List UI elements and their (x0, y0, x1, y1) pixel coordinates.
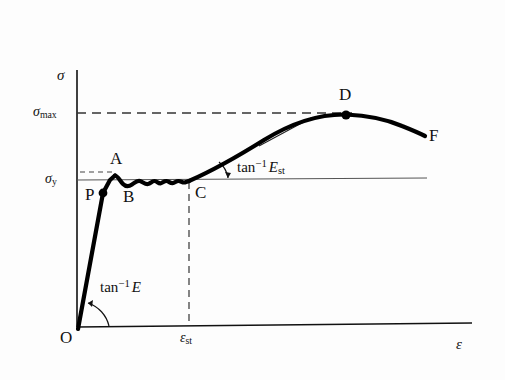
plot-canvas (0, 0, 505, 380)
y-tick-sigma-max: σmax (33, 105, 57, 120)
y-axis-label: σ (57, 68, 64, 83)
point-label-B: B (123, 188, 134, 205)
point-label-D: D (339, 86, 351, 103)
elastic-angle-arrowhead (88, 300, 93, 307)
hardening-angle-annotation: tan−1Est (237, 158, 285, 176)
elastic-angle-prefix: tan (100, 279, 118, 295)
hardening-angle-symbol: E (269, 159, 278, 175)
elastic-angle-annotation: tan−1E (100, 278, 141, 295)
y-tick-sigma-max-subscript: max (40, 109, 57, 120)
y-tick-sigma-y-subscript: y (52, 176, 57, 187)
hardening-angle-subscript: st (278, 165, 285, 176)
curve-yield-plateau (115, 176, 189, 187)
stress-strain-figure: σ ε O σmax σy εst P A B C D F tan−1E tan… (0, 0, 505, 380)
x-axis-label: ε (456, 337, 462, 352)
elastic-angle-arc (88, 303, 109, 326)
sigma-y-reference-line (77, 178, 427, 180)
x-tick-epsilon-st-subscript: st (186, 335, 193, 346)
y-tick-sigma-y: σy (45, 172, 57, 187)
elastic-angle-exponent: −1 (118, 277, 130, 289)
y-tick-sigma-max-symbol: σ (33, 104, 40, 119)
hardening-angle-exponent: −1 (255, 157, 267, 169)
elastic-angle-symbol: E (132, 279, 141, 295)
x-tick-epsilon-st: εst (180, 331, 192, 346)
point-marker-D (341, 110, 350, 119)
hardening-angle-arrowhead (225, 172, 231, 178)
y-tick-sigma-y-symbol: σ (45, 171, 52, 186)
hardening-angle-prefix: tan (237, 159, 255, 175)
curve-elastic-region (78, 176, 115, 330)
x-axis (77, 323, 472, 327)
origin-label: O (60, 329, 72, 346)
curve-necking (346, 115, 425, 137)
point-label-F: F (429, 127, 438, 144)
point-label-A: A (110, 150, 122, 167)
point-label-C: C (195, 184, 206, 201)
point-marker-P (99, 189, 108, 198)
point-label-P: P (85, 186, 94, 203)
